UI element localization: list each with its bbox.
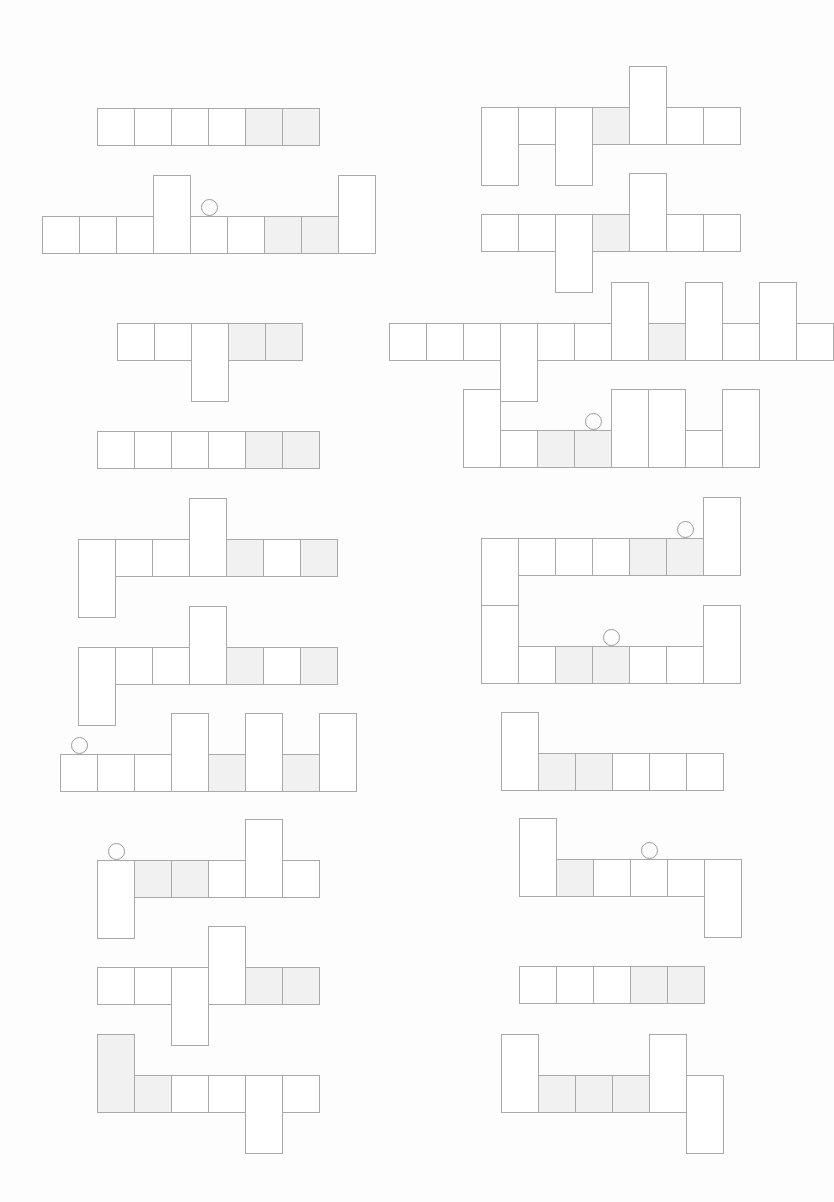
flat-cell	[171, 1075, 209, 1113]
shaded-flat-cell	[612, 1075, 650, 1113]
flat-cell	[500, 430, 538, 468]
lowered-cell	[191, 323, 229, 402]
circle-marker-icon	[677, 521, 694, 538]
raised-cell	[611, 389, 649, 468]
flat-cell	[686, 753, 724, 791]
flat-cell	[666, 107, 704, 145]
raised-cell	[703, 497, 741, 576]
shaded-flat-cell	[300, 539, 338, 577]
flat-cell	[282, 1075, 320, 1113]
shaded-flat-cell	[556, 859, 594, 897]
shaded-flat-cell	[264, 216, 302, 254]
circle-marker-icon	[585, 413, 602, 430]
flat-cell	[612, 753, 650, 791]
flat-cell	[97, 754, 135, 792]
flat-cell	[685, 430, 723, 468]
flat-cell	[518, 214, 556, 252]
raised-cell	[685, 282, 723, 361]
flat-cell	[208, 860, 246, 898]
flat-cell	[208, 431, 246, 469]
lowered-cell	[245, 1075, 283, 1154]
raised-cell	[519, 818, 557, 897]
shaded-flat-cell	[629, 538, 667, 576]
shaded-flat-cell	[537, 430, 575, 468]
circle-marker-icon	[71, 737, 88, 754]
shaded-flat-cell	[134, 860, 172, 898]
flat-cell	[227, 216, 265, 254]
circle-marker-icon	[201, 199, 218, 216]
shaded-flat-cell	[282, 108, 320, 146]
shaded-flat-cell	[555, 646, 593, 684]
shaded-flat-cell	[245, 967, 283, 1005]
flat-cell	[263, 647, 301, 685]
flat-cell	[666, 646, 704, 684]
raised-cell	[245, 713, 283, 792]
flat-cell	[171, 108, 209, 146]
flat-cell	[97, 431, 135, 469]
shaded-flat-cell	[282, 967, 320, 1005]
raised-cell	[629, 173, 667, 252]
raised-cell	[759, 282, 797, 361]
shaded-flat-cell	[208, 754, 246, 792]
flat-cell	[263, 539, 301, 577]
shaded-flat-cell	[592, 214, 630, 252]
circle-marker-icon	[603, 629, 620, 646]
shaded-flat-cell	[667, 966, 705, 1004]
raised-cell	[611, 282, 649, 361]
flat-cell	[42, 216, 80, 254]
shaded-flat-cell	[300, 647, 338, 685]
shaded-flat-cell	[574, 430, 612, 468]
raised-cell	[629, 66, 667, 145]
flat-cell	[134, 431, 172, 469]
flat-cell	[574, 323, 612, 361]
flat-cell	[703, 214, 741, 252]
raised-cell	[722, 389, 760, 468]
shaded-flat-cell	[282, 431, 320, 469]
shaded-flat-cell	[575, 753, 613, 791]
flat-cell	[389, 323, 427, 361]
flat-cell	[519, 966, 557, 1004]
lowered-cell	[171, 967, 209, 1046]
circle-marker-icon	[641, 842, 658, 859]
flat-cell	[115, 539, 153, 577]
flat-cell	[79, 216, 117, 254]
raised-cell	[189, 606, 227, 685]
lowered-cell	[481, 107, 519, 186]
lowered-cell	[555, 214, 593, 293]
raised-cell	[648, 389, 686, 468]
lowered-cell	[97, 860, 135, 939]
shaded-flat-cell	[282, 754, 320, 792]
shaded-flat-cell	[630, 966, 668, 1004]
shaded-flat-cell	[226, 539, 264, 577]
flat-cell	[555, 538, 593, 576]
lowered-cell	[555, 107, 593, 186]
flat-cell	[703, 107, 741, 145]
circle-marker-icon	[108, 843, 125, 860]
raised-cell	[189, 498, 227, 577]
shaded-flat-cell	[301, 216, 339, 254]
raised-cell	[338, 175, 376, 254]
flat-cell	[154, 323, 192, 361]
flat-cell	[629, 646, 667, 684]
raised-cell	[171, 713, 209, 792]
flat-cell	[518, 646, 556, 684]
shaded-flat-cell	[538, 753, 576, 791]
shaded-flat-cell	[265, 323, 303, 361]
raised-cell	[481, 605, 519, 684]
flat-cell	[190, 216, 228, 254]
shaded-flat-cell	[648, 323, 686, 361]
lowered-cell	[686, 1075, 724, 1154]
flat-cell	[593, 966, 631, 1004]
raised-cell	[319, 713, 357, 792]
flat-cell	[97, 108, 135, 146]
lowered-cell	[704, 859, 742, 938]
flat-cell	[630, 859, 668, 897]
flat-cell	[426, 323, 464, 361]
flat-cell	[171, 431, 209, 469]
shaded-raised-cell	[97, 1034, 135, 1113]
shaded-flat-cell	[666, 538, 704, 576]
flat-cell	[60, 754, 98, 792]
raised-cell	[501, 712, 539, 791]
flat-cell	[134, 108, 172, 146]
